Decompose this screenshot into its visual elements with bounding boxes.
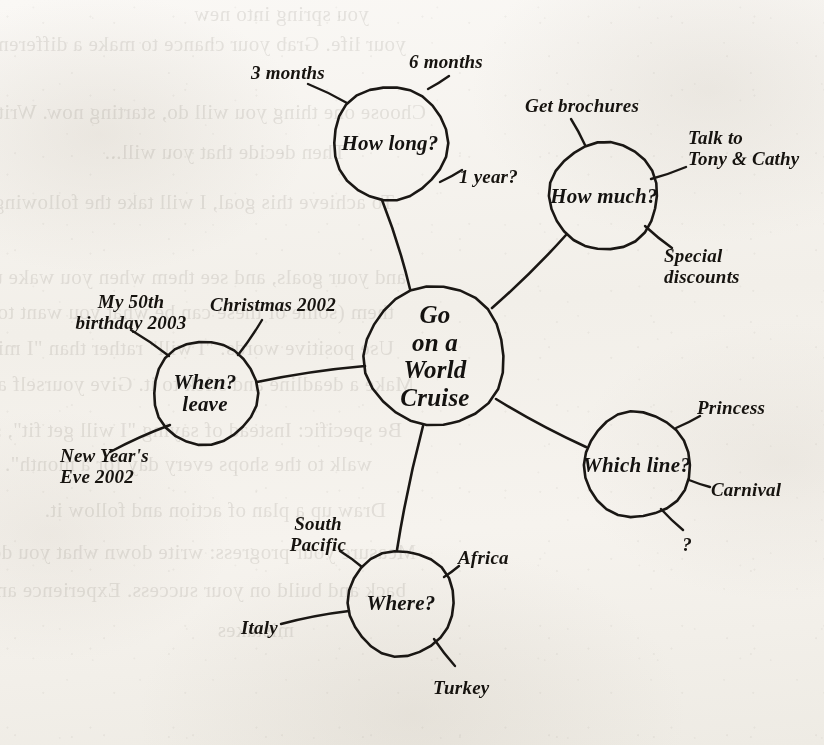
- leaf-label-one-year[interactable]: 1 year?: [459, 166, 518, 187]
- spoke-my-50th-birthday: [131, 330, 169, 356]
- leaf-label-princess[interactable]: Princess: [697, 397, 765, 418]
- branch-node-label-where[interactable]: Where?: [367, 592, 436, 614]
- leaf-label-new-years-eve[interactable]: New Year's Eve 2002: [60, 445, 149, 488]
- branch-node-label-which-line[interactable]: Which line?: [583, 454, 691, 476]
- leaf-label-talk-to-tony-cathy[interactable]: Talk to Tony & Cathy: [688, 127, 800, 170]
- spoke-six-months: [428, 76, 449, 89]
- central-node-label[interactable]: Go on a World Cruise: [400, 301, 469, 411]
- leaf-label-get-brochures[interactable]: Get brochures: [525, 95, 639, 116]
- leaf-label-south-pacific[interactable]: South Pacific: [290, 513, 346, 556]
- leaf-label-turkey[interactable]: Turkey: [433, 677, 489, 698]
- leaf-label-unknown-line[interactable]: ?: [682, 534, 692, 555]
- spoke-get-brochures: [571, 119, 585, 145]
- spoke-carnival: [689, 480, 710, 487]
- leaf-label-italy[interactable]: Italy: [241, 617, 278, 638]
- connector-center-to-how-much: [492, 235, 566, 308]
- leaf-label-my-50th-birthday[interactable]: My 50th birthday 2003: [76, 291, 187, 334]
- branch-node-label-when-leave[interactable]: When? leave: [174, 371, 237, 416]
- spoke-three-months: [308, 84, 347, 103]
- connector-center-to-which-line: [496, 399, 586, 447]
- leaf-label-special-discounts[interactable]: Special discounts: [664, 245, 740, 288]
- leaf-label-carnival[interactable]: Carnival: [711, 479, 781, 500]
- branch-node-label-how-long[interactable]: How long?: [342, 132, 439, 154]
- mindmap-page: you spring into new your life. Grab your…: [0, 0, 824, 745]
- spoke-unknown-line: [661, 509, 683, 530]
- leaf-label-three-months[interactable]: 3 months: [251, 62, 325, 83]
- connector-center-to-how-long: [382, 200, 410, 289]
- spoke-talk-to-tony-cathy: [651, 167, 686, 179]
- spoke-christmas-2002: [238, 320, 262, 355]
- connector-center-to-where: [397, 426, 423, 550]
- connector-center-to-when-leave: [257, 366, 365, 382]
- leaf-label-six-months[interactable]: 6 months: [409, 51, 483, 72]
- leaf-label-africa[interactable]: Africa: [458, 547, 509, 568]
- branch-node-label-how-much[interactable]: How much?: [550, 185, 657, 207]
- spoke-italy: [281, 611, 349, 624]
- leaf-label-christmas-2002[interactable]: Christmas 2002: [210, 294, 336, 315]
- spoke-turkey: [434, 639, 455, 666]
